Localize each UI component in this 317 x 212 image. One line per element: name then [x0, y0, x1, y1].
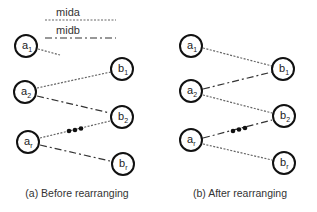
node-a1: a1 [15, 35, 37, 57]
panel-a-nodes: a1 a2 ar b1 b2 br [14, 35, 134, 175]
edge-ar-br [203, 144, 272, 160]
ellipsis-dot [67, 129, 72, 134]
edge-a2-b2 [203, 95, 272, 113]
node-b2: b2 [111, 106, 133, 128]
legend: mida midb [45, 6, 116, 38]
edge-ar-br [40, 145, 110, 161]
caption-panel-a: (a) Before rearranging [25, 187, 128, 199]
edge-a2-b2 [37, 96, 110, 113]
node-a2: a2 [14, 81, 36, 103]
ellipsis-dot [231, 129, 236, 134]
node-b1: b1 [272, 58, 294, 80]
ellipsis-dot [73, 128, 78, 133]
ellipsis-dot [237, 127, 242, 132]
ellipsis-dot [79, 126, 84, 131]
node-ar: ar [17, 131, 39, 153]
edge-a2-b1 [203, 72, 272, 89]
node-a2: a2 [180, 80, 202, 102]
edge-a1-b1 [203, 48, 272, 66]
caption-panel-b: (b) After rearranging [193, 187, 287, 199]
panel-b-edges [203, 48, 272, 160]
edge-a1-partial [38, 49, 60, 55]
node-br: br [112, 153, 134, 175]
node-b2: b2 [273, 105, 295, 127]
node-b1: b1 [111, 58, 133, 80]
node-ar: ar [180, 129, 202, 151]
node-a1: a1 [180, 35, 202, 57]
legend-label-midb: midb [56, 24, 80, 36]
panel-a-edges [37, 49, 111, 161]
legend-label-mida: mida [56, 6, 81, 18]
ellipsis-dot [243, 126, 248, 131]
edge-a2-b1 [37, 72, 111, 88]
diagram-canvas: mida midb a1 a2 ar b1 [0, 0, 317, 212]
node-br: br [273, 152, 295, 174]
